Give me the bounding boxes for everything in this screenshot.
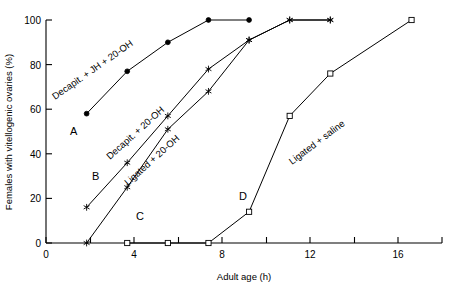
data-point-marker bbox=[247, 18, 252, 23]
data-point-marker bbox=[125, 69, 130, 74]
data-point-marker bbox=[328, 71, 333, 76]
data-point-marker bbox=[165, 240, 170, 245]
y-ticklabel-80: 80 bbox=[30, 60, 42, 71]
data-point-marker bbox=[246, 209, 251, 214]
curve-annotations-group: Decapit. + JH + 20-OH Decapit. + 20-OH L… bbox=[50, 37, 347, 187]
x-ticklabel-8: 8 bbox=[219, 249, 225, 260]
y-ticks-group: 100 80 60 40 20 0 bbox=[24, 15, 52, 249]
y-ticklabel-40: 40 bbox=[30, 149, 42, 160]
data-point-marker bbox=[84, 111, 89, 116]
y-ticklabel-60: 60 bbox=[30, 104, 42, 115]
data-point-marker bbox=[165, 40, 170, 45]
y-ticklabel-0: 0 bbox=[35, 238, 41, 249]
panel-letter-c: C bbox=[136, 210, 144, 222]
y-ticklabel-20: 20 bbox=[30, 193, 42, 204]
curve-label-ligated-saline: Ligated + saline bbox=[287, 118, 347, 167]
panel-letter-a: A bbox=[70, 125, 78, 137]
line-chart-svg: 100 80 60 40 20 0 0 4 8 12 16 Adult ag bbox=[0, 0, 452, 286]
data-point-marker bbox=[125, 240, 130, 245]
y-ticklabel-100: 100 bbox=[24, 15, 41, 26]
x-ticklabel-0: 0 bbox=[43, 249, 49, 260]
series-line-a bbox=[87, 20, 249, 114]
panel-letter-d: D bbox=[239, 190, 247, 202]
panel-letters-group: A B C D bbox=[70, 125, 247, 222]
series-line-d bbox=[127, 20, 411, 243]
curve-label-decapit-jh-20oh: Decapit. + JH + 20-OH bbox=[50, 37, 135, 101]
panel-letter-b: B bbox=[92, 170, 99, 182]
x-ticklabel-12: 12 bbox=[304, 249, 316, 260]
data-point-marker bbox=[206, 240, 211, 245]
data-point-marker bbox=[206, 18, 211, 23]
x-axis-title: Adult age (h) bbox=[217, 271, 271, 282]
x-ticklabel-16: 16 bbox=[392, 249, 404, 260]
y-axis-title: Females with vitellogenic ovaries (%) bbox=[3, 54, 14, 210]
x-ticklabel-4: 4 bbox=[131, 249, 137, 260]
chart-figure: 100 80 60 40 20 0 0 4 8 12 16 Adult ag bbox=[0, 0, 452, 286]
data-point-marker bbox=[409, 17, 414, 22]
x-ticks-group: 0 4 8 12 16 bbox=[43, 237, 442, 260]
data-point-marker bbox=[287, 113, 292, 118]
